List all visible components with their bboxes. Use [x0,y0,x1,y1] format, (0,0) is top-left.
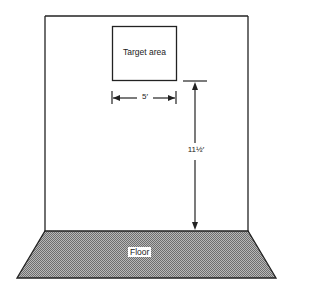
width-dimension-label: 5′ [137,92,153,101]
height-dimension-label: 11½′ [183,145,209,154]
target-area-label: Target area [112,47,177,57]
height-dimension-line [183,81,207,230]
floor-label: Floor [128,247,151,257]
